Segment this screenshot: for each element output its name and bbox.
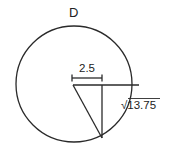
radius-diagonal [73, 85, 102, 138]
label-segment-length: 2.5 [79, 62, 95, 74]
label-d: D [69, 5, 78, 20]
label-sqrt-value: √13.75 [121, 99, 156, 111]
dimension-bar [72, 75, 102, 82]
circle-diagram: D 2.5 √13.75 [0, 0, 170, 157]
label-sqrt-group: √13.75 [121, 99, 160, 112]
circle [16, 26, 132, 142]
diagram-canvas: D 2.5 √13.75 [0, 0, 170, 157]
